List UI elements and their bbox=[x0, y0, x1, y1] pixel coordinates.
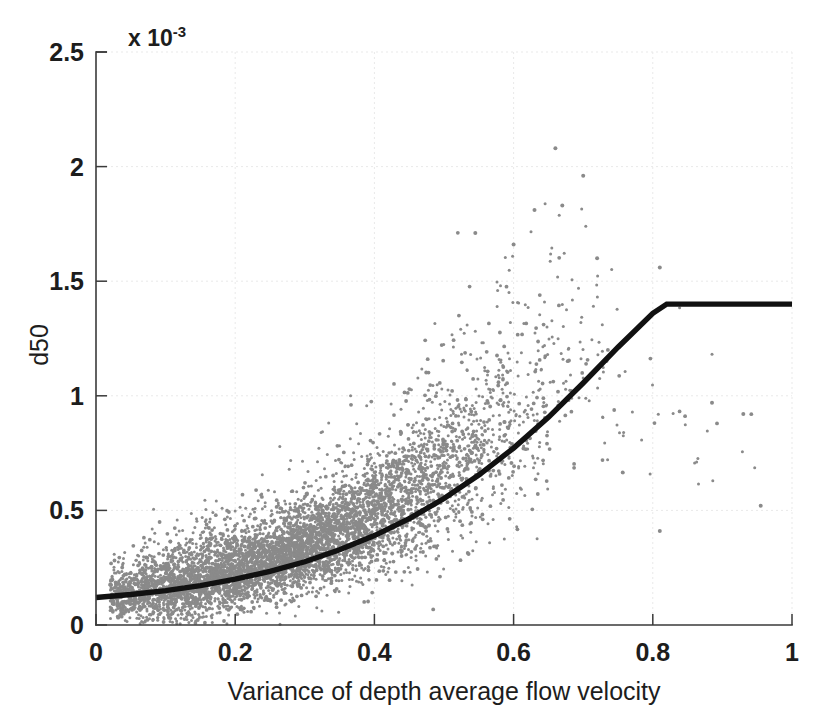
scatter-point bbox=[481, 433, 484, 436]
scatter-point bbox=[409, 550, 413, 554]
scatter-point bbox=[328, 531, 331, 534]
scatter-point bbox=[129, 571, 133, 575]
scatter-point bbox=[450, 440, 453, 443]
scatter-point bbox=[434, 454, 438, 458]
scatter-point bbox=[375, 553, 379, 557]
scatter-point bbox=[204, 508, 207, 511]
scatter-point bbox=[112, 587, 115, 590]
scatter-point bbox=[460, 449, 463, 452]
scatter-point bbox=[280, 585, 283, 588]
scatter-point bbox=[185, 560, 188, 563]
scatter-point bbox=[142, 546, 145, 549]
scatter-point bbox=[543, 354, 547, 358]
scatter-point bbox=[410, 504, 413, 507]
scatter-point bbox=[284, 517, 288, 521]
scatter-point bbox=[348, 508, 352, 512]
scatter-point bbox=[169, 609, 172, 612]
scatter-point bbox=[475, 401, 478, 404]
scatter-point bbox=[349, 403, 353, 407]
scatter-point bbox=[498, 414, 501, 417]
scatter-point bbox=[117, 561, 120, 564]
scatter-point bbox=[266, 598, 270, 602]
scatter-point bbox=[203, 499, 206, 502]
scatter-point bbox=[341, 470, 344, 473]
scatter-point bbox=[287, 576, 290, 579]
scatter-point bbox=[330, 563, 333, 566]
scatter-point bbox=[177, 564, 180, 567]
scatter-point bbox=[349, 491, 352, 494]
scatter-point bbox=[374, 514, 377, 517]
scatter-point bbox=[363, 483, 366, 486]
scatter-point bbox=[469, 521, 473, 525]
scatter-point bbox=[211, 607, 214, 610]
scatter-point bbox=[374, 466, 377, 469]
scatter-point bbox=[276, 529, 279, 532]
scatter-point bbox=[542, 462, 545, 465]
scatter-point bbox=[359, 432, 362, 435]
scatter-point bbox=[283, 500, 286, 503]
scatter-point bbox=[183, 609, 186, 612]
x-tick-label: 0 bbox=[89, 638, 103, 666]
chart-figure: 00.511.522.5 00.20.40.60.81 x 10-3 d50 V… bbox=[0, 0, 826, 711]
scatter-point bbox=[434, 524, 437, 527]
scatter-point bbox=[447, 464, 451, 468]
scatter-point bbox=[487, 439, 490, 442]
scatter-point bbox=[290, 517, 294, 521]
scatter-point bbox=[431, 441, 434, 444]
scatter-point bbox=[503, 433, 506, 436]
scatter-point bbox=[284, 503, 287, 506]
scatter-point bbox=[201, 516, 204, 519]
scatter-point bbox=[205, 523, 209, 527]
scatter-point bbox=[435, 557, 439, 561]
scatter-point bbox=[301, 548, 304, 551]
scatter-point bbox=[307, 570, 310, 573]
scatter-point bbox=[389, 470, 392, 473]
scatter-point bbox=[460, 410, 463, 413]
scatter-point bbox=[505, 395, 509, 399]
scatter-point bbox=[432, 490, 435, 493]
scatter-point bbox=[275, 541, 279, 545]
scatter-point bbox=[217, 590, 221, 594]
scatter-point bbox=[167, 553, 170, 556]
scatter-point bbox=[185, 582, 188, 585]
scatter-point bbox=[315, 543, 318, 546]
scatter-point bbox=[426, 478, 430, 482]
scatter-point bbox=[173, 582, 176, 585]
scatter-point bbox=[419, 547, 422, 550]
scatter-point bbox=[473, 414, 476, 417]
scatter-point bbox=[415, 559, 418, 562]
scatter-point bbox=[337, 535, 340, 538]
scatter-point bbox=[749, 412, 753, 416]
scatter-point bbox=[333, 555, 336, 558]
scatter-point bbox=[418, 475, 421, 478]
scatter-point bbox=[386, 493, 389, 496]
scatter-point bbox=[284, 510, 287, 513]
scatter-point bbox=[592, 305, 595, 308]
scatter-point bbox=[290, 585, 294, 589]
scatter-point bbox=[361, 517, 364, 520]
scatter-point bbox=[436, 544, 439, 547]
scatter-point bbox=[304, 580, 307, 583]
scatter-point bbox=[278, 612, 281, 615]
scatter-point bbox=[529, 361, 532, 364]
scatter-point bbox=[372, 504, 376, 508]
scatter-point bbox=[496, 305, 499, 308]
scatter-point bbox=[428, 436, 431, 439]
scatter-point bbox=[557, 304, 561, 308]
scatter-point bbox=[177, 613, 180, 616]
scatter-point bbox=[558, 420, 561, 423]
scatter-point bbox=[508, 269, 511, 272]
scatter-point bbox=[441, 359, 445, 363]
scatter-point bbox=[373, 500, 376, 503]
scatter-point bbox=[362, 569, 365, 572]
scatter-point bbox=[169, 570, 172, 573]
scatter-point bbox=[419, 451, 423, 455]
scatter-point bbox=[538, 441, 541, 444]
scatter-point bbox=[405, 456, 408, 459]
scatter-point bbox=[479, 516, 482, 519]
scatter-point bbox=[567, 348, 570, 351]
scatter-point bbox=[371, 479, 374, 482]
y-axis-exponent: x 10-3 bbox=[128, 23, 186, 51]
scatter-point bbox=[452, 412, 455, 415]
scatter-point bbox=[239, 555, 242, 558]
